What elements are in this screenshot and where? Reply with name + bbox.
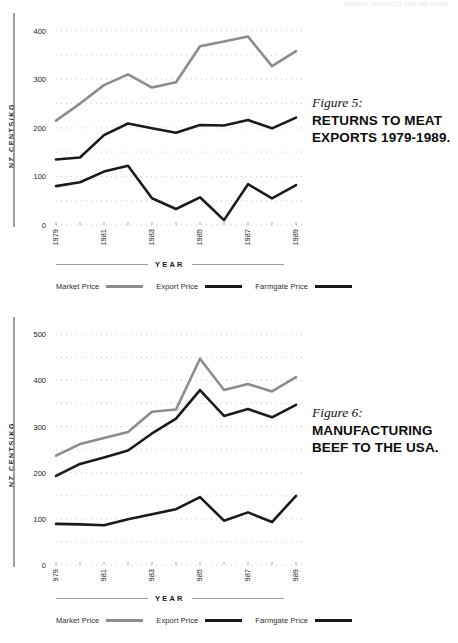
- series-line-export-price: [56, 390, 296, 476]
- legend-item-market-price: Market Price: [56, 616, 143, 625]
- caption-figure-5: Figure 5: RETURNS TO MEAT EXPORTS 1979-1…: [312, 95, 458, 146]
- figure-title-5: RETURNS TO MEAT EXPORTS 1979-1989.: [312, 112, 458, 146]
- legend-swatch: [205, 285, 242, 288]
- x-tick-label: 1985: [195, 569, 204, 582]
- legend-item-farmgate-price: Farmgate Price: [255, 282, 352, 291]
- legend-swatch: [106, 285, 143, 288]
- figure-6: NZ CENTS/KG 0100200300400500197919811983…: [0, 312, 458, 643]
- x-tick-label: 1979: [51, 569, 60, 582]
- year-rule-right: [192, 264, 284, 265]
- line-chart-figure-6: 0100200300400500197919811983198519871989: [0, 312, 312, 582]
- legend-label: Export Price: [156, 616, 198, 625]
- y-tick-label: 200: [33, 124, 46, 133]
- chart-plot-figure-6: 0100200300400500197919811983198519871989: [0, 312, 312, 582]
- legend-swatch: [106, 619, 143, 622]
- x-tick-label: 1983: [147, 569, 156, 582]
- series-line-market-price: [56, 37, 296, 121]
- legend-item-market-price: Market Price: [56, 282, 143, 291]
- y-tick-label: 400: [33, 376, 46, 385]
- y-tick-label: 0: [42, 221, 46, 230]
- x-tick-label: 1989: [291, 569, 300, 582]
- legend-swatch: [205, 619, 242, 622]
- y-tick-label: 0: [42, 561, 46, 570]
- series-line-market-price: [56, 359, 296, 456]
- caption-figure-6: Figure 6: MANUFACTURING BEEF TO THE USA.: [312, 405, 458, 456]
- x-axis-title-row-figure-5: YEAR: [0, 260, 458, 274]
- legend-label: Market Price: [56, 282, 99, 291]
- x-tick-label: 1981: [99, 229, 108, 246]
- x-axis-title-figure-6: YEAR: [148, 594, 192, 603]
- x-tick-label: 1981: [99, 569, 108, 582]
- y-tick-label: 200: [33, 469, 46, 478]
- legend-item-export-price: Export Price: [156, 282, 242, 291]
- y-tick-label: 500: [33, 330, 46, 339]
- y-tick-label: 300: [33, 75, 46, 84]
- year-rule-right: [192, 598, 284, 599]
- y-tick-label: 400: [33, 27, 46, 36]
- legend-figure-5: Market PriceExport PriceFarmgate Price: [56, 282, 365, 291]
- x-tick-label: 1989: [291, 229, 300, 246]
- line-chart-figure-5: 0100200300400197919811983198519871989: [0, 8, 312, 258]
- y-tick-label: 100: [33, 172, 46, 181]
- year-rule-left: [56, 264, 148, 265]
- figure-title-6: MANUFACTURING BEEF TO THE USA.: [312, 422, 458, 456]
- legend-label: Farmgate Price: [255, 616, 308, 625]
- y-tick-label: 100: [33, 515, 46, 524]
- figure-number-6: Figure 6:: [312, 405, 458, 421]
- legend-swatch: [315, 619, 352, 622]
- legend-label: Export Price: [156, 282, 198, 291]
- x-axis-title-figure-5: YEAR: [148, 260, 192, 269]
- x-tick-label: 1985: [195, 229, 204, 246]
- figure-number-5: Figure 5:: [312, 95, 458, 111]
- chart-plot-figure-5: 0100200300400197919811983198519871989: [0, 8, 312, 258]
- legend-label: Farmgate Price: [255, 282, 308, 291]
- legend-item-export-price: Export Price: [156, 616, 242, 625]
- legend-label: Market Price: [56, 616, 99, 625]
- x-tick-label: 1979: [51, 229, 60, 246]
- year-rule-left: [56, 598, 148, 599]
- legend-item-farmgate-price: Farmgate Price: [255, 616, 352, 625]
- series-line-farmgate-price: [56, 166, 296, 220]
- legend-figure-6: Market PriceExport PriceFarmgate Price: [56, 616, 365, 625]
- x-tick-label: 1987: [243, 569, 252, 582]
- page-root: PRIMARY PRODUCTS AND THE FIRMS NZ CENTS/…: [0, 0, 458, 643]
- figure-5: NZ CENTS/KG 0100200300400197919811983198…: [0, 8, 458, 300]
- x-tick-label: 1983: [147, 229, 156, 246]
- series-line-farmgate-price: [56, 496, 296, 526]
- y-tick-label: 300: [33, 423, 46, 432]
- series-line-export-price: [56, 118, 296, 160]
- running-header: PRIMARY PRODUCTS AND THE FIRMS: [344, 1, 448, 7]
- x-axis-title-row-figure-6: YEAR: [0, 594, 458, 608]
- legend-swatch: [315, 285, 352, 288]
- x-tick-label: 1987: [243, 229, 252, 246]
